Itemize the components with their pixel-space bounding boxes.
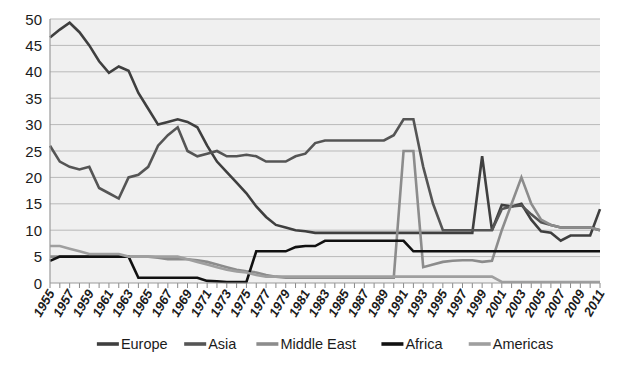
y-axis-tick-label: 30 <box>25 116 42 133</box>
y-axis-tick-label: 15 <box>25 195 42 212</box>
legend-label: Africa <box>405 336 443 352</box>
y-axis-tick-label: 45 <box>25 37 42 54</box>
chart-canvas: 05101520253035404550 1955195719591961196… <box>0 0 625 365</box>
legend-label: Europe <box>121 336 168 352</box>
y-axis-tick-label: 25 <box>25 143 42 160</box>
legend-label: Middle East <box>280 336 356 352</box>
y-axis-tick-label: 50 <box>25 11 42 28</box>
y-axis-tick-label: 40 <box>25 63 42 80</box>
y-axis-tick-label: 5 <box>34 248 42 265</box>
y-axis-tick-label: 0 <box>34 275 42 292</box>
line-chart: 05101520253035404550 1955195719591961196… <box>0 0 625 365</box>
legend-label: Asia <box>208 336 237 352</box>
y-axis-tick-label: 20 <box>25 169 42 186</box>
y-axis-tick-label: 10 <box>25 222 42 239</box>
y-axis-tick-label: 35 <box>25 90 42 107</box>
legend-label: Americas <box>493 336 553 352</box>
